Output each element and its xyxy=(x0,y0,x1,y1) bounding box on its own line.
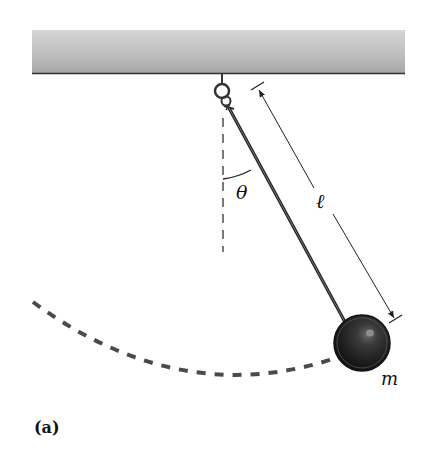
pendulum-bob xyxy=(334,315,390,371)
pivot-hook xyxy=(215,74,234,110)
ceiling-support xyxy=(32,30,405,74)
angle-label: θ xyxy=(236,181,248,203)
pendulum-diagram: θ ℓ m (a) xyxy=(0,0,440,460)
figure-label: (a) xyxy=(34,418,60,437)
mass-label: m xyxy=(381,368,398,389)
angle-arc xyxy=(223,170,251,179)
length-label: ℓ xyxy=(316,189,325,213)
swing-path-arc xyxy=(33,302,336,375)
